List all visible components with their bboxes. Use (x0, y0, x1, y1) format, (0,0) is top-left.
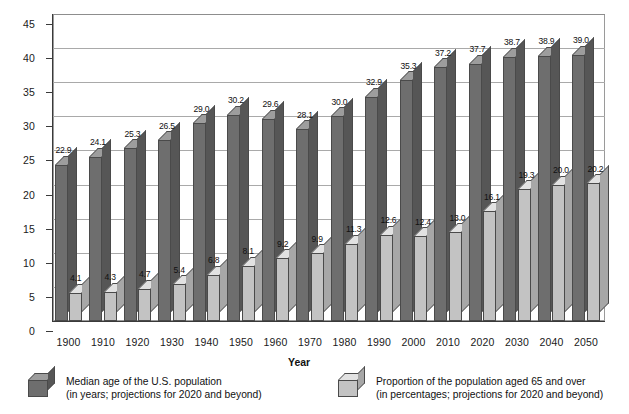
y-tick-label: 30 (5, 120, 35, 132)
x-axis-title: Year (288, 356, 310, 368)
y-tick-label: 25 (5, 154, 35, 166)
bar-chart: 051015202530354045 22.94.124.14.325.34.7… (0, 0, 629, 414)
bar-proportion-65 (483, 211, 496, 321)
bar-proportion-65 (311, 253, 324, 321)
x-tick-label: 1960 (258, 336, 294, 348)
x-tick-label: 2050 (568, 336, 604, 348)
bar-group: 25.34.7 (124, 14, 159, 321)
bar-value-label: 39.0 (573, 36, 589, 45)
bar-median-age (503, 57, 516, 321)
bar-value-label: 19.3 (519, 171, 535, 180)
legend-label-median-age: Median age of the U.S. population (in ye… (66, 376, 262, 401)
bar-group: 29.69.2 (262, 14, 297, 321)
y-tick-label: 20 (5, 189, 35, 201)
bar-group: 37.716.1 (469, 14, 504, 321)
bar-value-label: 9.9 (312, 235, 323, 244)
x-tick-label: 1920 (120, 336, 156, 348)
bar-value-label: 38.7 (504, 38, 520, 47)
bar-median-age (227, 115, 240, 321)
bar-value-label: 24.1 (90, 138, 106, 147)
bar-median-age (193, 123, 206, 321)
bar-median-age (331, 116, 344, 321)
bar-group: 22.94.1 (55, 14, 90, 321)
bar-proportion-65 (380, 235, 393, 321)
bar-group: 30.011.3 (331, 14, 366, 321)
bar-value-label: 12.4 (415, 218, 431, 227)
bar-value-label: 22.9 (56, 146, 72, 155)
bar-proportion-65 (104, 292, 117, 321)
bar-median-age (400, 80, 413, 321)
bar-value-label: 20.0 (553, 166, 569, 175)
x-tick-label: 2040 (534, 336, 570, 348)
x-tick-label: 1900 (51, 336, 87, 348)
bar-value-label: 4.3 (105, 273, 116, 282)
bar-value-label: 4.1 (70, 274, 81, 283)
x-tick-label: 1910 (85, 336, 121, 348)
bar-group: 28.19.9 (296, 14, 331, 321)
bar-group: 38.920.0 (538, 14, 573, 321)
bar-value-label: 16.1 (484, 193, 500, 202)
bar-group: 26.55.4 (158, 14, 193, 321)
bar-proportion-65 (138, 289, 151, 321)
y-tick-label: 45 (5, 18, 35, 30)
bar-median-age (572, 55, 585, 321)
bar-proportion-65 (207, 275, 220, 321)
bar-proportion-65 (414, 236, 427, 321)
x-tick-label: 1930 (154, 336, 190, 348)
bar-median-age (434, 67, 447, 321)
bar-group: 39.020.2 (572, 14, 607, 321)
bar-median-age (89, 157, 102, 321)
bar-median-age (538, 56, 551, 321)
bar-median-age (365, 97, 378, 321)
bar-value-label: 29.6 (263, 100, 279, 109)
bar-value-label: 6.8 (208, 256, 219, 265)
x-tick-label: 1970 (292, 336, 328, 348)
bar-median-age (124, 148, 137, 321)
bar-value-label: 30.0 (332, 98, 348, 107)
bar-value-label: 13.0 (450, 214, 466, 223)
bar-proportion-65 (518, 189, 531, 321)
bar-value-label: 35.3 (401, 62, 417, 71)
bar-value-label: 9.2 (277, 240, 288, 249)
bar-value-label: 37.2 (435, 49, 451, 58)
bar-group: 35.312.4 (400, 14, 435, 321)
bar-median-age (55, 165, 68, 321)
legend-swatch-dark-cube-icon (28, 380, 48, 397)
y-tick-label: 0 (5, 325, 35, 337)
bar-value-label: 28.1 (297, 111, 313, 120)
bar-proportion-65 (242, 266, 255, 321)
y-tick-label: 10 (5, 257, 35, 269)
bar-proportion-65 (276, 258, 289, 321)
bar-value-label: 29.0 (194, 105, 210, 114)
bar-proportion-65 (69, 293, 82, 321)
bar-value-label: 26.5 (159, 122, 175, 131)
bar-proportion-65 (173, 284, 186, 321)
y-tick-label: 40 (5, 52, 35, 64)
bar-value-label: 5.4 (174, 266, 185, 275)
bar-value-label: 38.9 (539, 37, 555, 46)
bar-group: 38.719.3 (503, 14, 538, 321)
bar-median-age (296, 129, 309, 321)
bar-value-label: 12.6 (381, 216, 397, 225)
bar-value-label: 32.9 (366, 78, 382, 87)
chart-legend: Median age of the U.S. population (in ye… (0, 374, 629, 414)
bar-group: 30.28.1 (227, 14, 262, 321)
bar-series-container: 22.94.124.14.325.34.726.55.429.06.830.28… (43, 14, 605, 331)
bar-value-label: 37.7 (470, 45, 486, 54)
x-tick-label: 2010 (430, 336, 466, 348)
y-tick-label: 15 (5, 223, 35, 235)
bar-median-age (469, 64, 482, 321)
bar-group: 29.06.8 (193, 14, 228, 321)
y-tick-mark (46, 331, 53, 332)
x-tick-label: 1980 (327, 336, 363, 348)
bar-median-age (158, 140, 171, 321)
plot-area: 051015202530354045 22.94.124.14.325.34.7… (43, 14, 605, 331)
bar-proportion-65 (345, 244, 358, 321)
x-tick-label: 1990 (361, 336, 397, 348)
bar-proportion-65 (449, 232, 462, 321)
x-tick-label: 2030 (499, 336, 535, 348)
x-tick-label: 2020 (465, 336, 501, 348)
bar-value-label: 20.2 (588, 165, 604, 174)
y-tick-label: 5 (5, 291, 35, 303)
y-tick-label: 35 (5, 86, 35, 98)
